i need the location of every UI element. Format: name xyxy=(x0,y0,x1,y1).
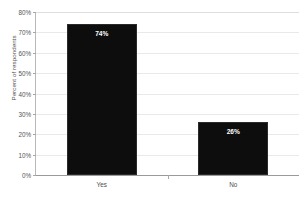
y-tick-mark xyxy=(33,73,36,74)
y-tick-mark xyxy=(33,175,36,176)
y-tick-mark xyxy=(33,94,36,95)
y-tick-label: 60% xyxy=(18,49,31,56)
x-tick-label: Yes xyxy=(97,181,107,188)
y-tick-mark xyxy=(33,12,36,13)
bar-chart: Percent of respondents 80%70%60%50%40%30… xyxy=(0,0,305,198)
bar-value-label: 74% xyxy=(68,30,136,37)
y-tick-label: 10% xyxy=(18,151,31,158)
plot-area: 80%70%60%50%40%30%20%10%0% 74%26% YesNo xyxy=(35,12,299,176)
y-tick-label: 70% xyxy=(18,29,31,36)
y-tick-label: 80% xyxy=(18,9,31,16)
bar[interactable]: 74% xyxy=(67,24,137,175)
x-tick-mark xyxy=(168,175,169,179)
y-tick-mark xyxy=(33,155,36,156)
y-tick-mark xyxy=(33,32,36,33)
y-tick-mark xyxy=(33,114,36,115)
y-tick-label: 0% xyxy=(22,172,31,179)
y-tick-label: 40% xyxy=(18,90,31,97)
bar-value-label: 26% xyxy=(199,128,267,135)
y-tick-mark xyxy=(33,53,36,54)
x-tick-label: No xyxy=(229,181,237,188)
y-tick-mark xyxy=(33,134,36,135)
gridline xyxy=(36,12,299,13)
bar[interactable]: 26% xyxy=(198,122,268,175)
y-tick-label: 20% xyxy=(18,131,31,138)
y-tick-label: 50% xyxy=(18,70,31,77)
y-tick-label: 30% xyxy=(18,110,31,117)
chart-title xyxy=(0,0,305,3)
